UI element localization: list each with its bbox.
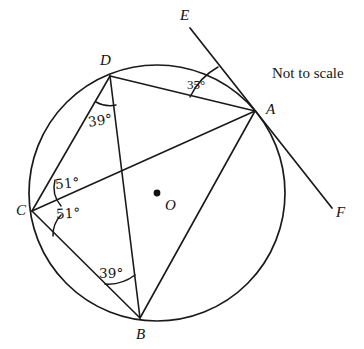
vertex-label-B: B xyxy=(136,327,145,342)
chord-D-A xyxy=(110,76,255,111)
vertex-label-C: C xyxy=(16,203,26,218)
angle-label-51-upper-at-C: 51° xyxy=(54,176,80,192)
chord-C-B xyxy=(32,211,140,318)
vertex-label-E: E xyxy=(180,8,189,23)
vertex-label-D: D xyxy=(100,53,111,68)
chord-D-C xyxy=(32,76,110,211)
chord-A-B xyxy=(140,111,255,318)
vertex-label-F: F xyxy=(336,205,345,220)
geometry-canvas xyxy=(0,0,364,349)
angle-label-39-at-D: 39° xyxy=(87,112,113,129)
vertex-label-A: A xyxy=(266,102,275,117)
chord-D-B xyxy=(110,76,140,318)
angle-label-51-lower-at-C: 51° xyxy=(56,206,81,221)
not-to-scale-note: Not to scale xyxy=(272,66,344,81)
tangent-line-EF xyxy=(190,28,332,208)
center-label-O: O xyxy=(165,198,176,213)
angle-label-35-at-A: 35° xyxy=(187,78,205,91)
geometry-figure: A B C D E F O 35° 39° 51° 51° 39° Not to… xyxy=(0,0,364,349)
diameter-C-O-A xyxy=(32,111,255,211)
center-point-O xyxy=(154,190,161,197)
angle-label-39-at-B: 39° xyxy=(99,267,124,281)
